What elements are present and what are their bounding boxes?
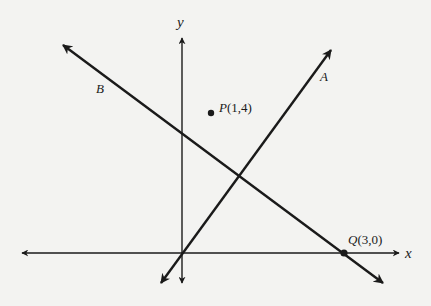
point-p-label: P(1,4): [218, 100, 252, 115]
point-p-letter: P: [218, 100, 227, 115]
x-axis-label: x: [404, 245, 412, 261]
point-q-coords: (3,0): [357, 232, 382, 247]
coordinate-diagram: y x A B P(1,4) Q(3,0): [0, 0, 431, 306]
point-q-label: Q(3,0): [348, 232, 382, 247]
line-a-label: A: [319, 69, 328, 84]
line-a: [161, 50, 331, 283]
point-p-coords: (1,4): [227, 100, 252, 115]
point-q: [340, 249, 347, 256]
line-b-label: B: [96, 81, 104, 96]
y-axis-label: y: [175, 14, 184, 30]
point-p: [208, 110, 214, 116]
line-b: [63, 45, 383, 283]
